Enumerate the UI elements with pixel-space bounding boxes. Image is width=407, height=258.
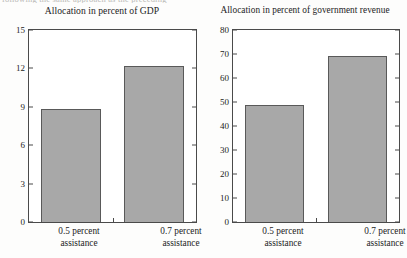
y-tick-mark-left bbox=[233, 198, 237, 199]
y-tick-mark-left bbox=[233, 78, 237, 79]
x-category-label-line: assistance bbox=[28, 238, 130, 250]
y-tick-label: 9 bbox=[21, 102, 26, 112]
y-tick-mark-right bbox=[192, 68, 196, 69]
y-tick-mark-left bbox=[233, 30, 237, 31]
plot-area-revenue: 01020304050607080 bbox=[232, 29, 400, 223]
y-tick-mark-left bbox=[29, 106, 33, 107]
x-axis-tick-mark bbox=[113, 218, 114, 222]
x-category-label-line: 0.5 percent bbox=[232, 226, 334, 238]
x-category-label: 0.7 percentassistance bbox=[334, 226, 407, 249]
y-tick-mark-right bbox=[192, 106, 196, 107]
y-tick-label: 3 bbox=[21, 179, 26, 189]
x-category-label-line: 0.7 percent bbox=[334, 226, 407, 238]
y-tick-mark-right bbox=[395, 54, 399, 55]
y-tick-mark-right bbox=[395, 126, 399, 127]
y-tick-label: 80 bbox=[220, 25, 229, 35]
y-tick-mark-left bbox=[233, 222, 237, 223]
y-tick-label: 40 bbox=[220, 121, 229, 131]
x-category-label: 0.5 percentassistance bbox=[28, 226, 130, 249]
y-tick-label: 6 bbox=[21, 140, 26, 150]
bar-0-7-percent-assistance bbox=[328, 56, 388, 222]
y-tick-label: 10 bbox=[220, 193, 229, 203]
y-tick-mark-right bbox=[395, 150, 399, 151]
y-tick-mark-right bbox=[192, 222, 196, 223]
y-tick-label: 60 bbox=[220, 73, 229, 83]
y-tick-mark-right bbox=[395, 30, 399, 31]
x-category-label-line: 0.5 percent bbox=[28, 226, 130, 238]
y-tick-mark-left bbox=[29, 222, 33, 223]
y-tick-mark-left bbox=[233, 174, 237, 175]
y-tick-mark-right bbox=[395, 102, 399, 103]
y-tick-label: 30 bbox=[220, 145, 229, 155]
chart-title-gdp: Allocation in percent of GDP bbox=[0, 5, 204, 16]
y-tick-mark-left bbox=[29, 30, 33, 31]
x-axis-labels-revenue: 0.5 percentassistance0.7 percentassistan… bbox=[203, 226, 407, 249]
plot-area-gdp: 03691215 bbox=[28, 29, 197, 223]
x-category-label-line: assistance bbox=[334, 238, 407, 250]
y-tick-mark-left bbox=[29, 145, 33, 146]
bar-0-5-percent-assistance bbox=[245, 105, 305, 222]
y-tick-mark-right bbox=[395, 222, 399, 223]
y-tick-mark-left bbox=[233, 126, 237, 127]
y-tick-label: 50 bbox=[220, 97, 229, 107]
y-tick-label: 15 bbox=[16, 25, 25, 35]
bar-0-5-percent-assistance bbox=[41, 109, 101, 222]
bar-0-7-percent-assistance bbox=[124, 66, 184, 222]
y-tick-mark-right bbox=[192, 145, 196, 146]
x-category-label: 0.5 percentassistance bbox=[232, 226, 334, 249]
x-category-label-line: assistance bbox=[232, 238, 334, 250]
y-tick-mark-right bbox=[395, 78, 399, 79]
chart-title-revenue: Allocation in percent of government reve… bbox=[203, 5, 407, 15]
y-tick-mark-left bbox=[233, 102, 237, 103]
y-tick-mark-right bbox=[192, 30, 196, 31]
y-tick-mark-right bbox=[395, 174, 399, 175]
y-tick-mark-left bbox=[29, 68, 33, 69]
y-tick-label: 20 bbox=[220, 169, 229, 179]
y-tick-mark-right bbox=[192, 183, 196, 184]
y-tick-label: 70 bbox=[220, 49, 229, 59]
y-tick-mark-left bbox=[29, 183, 33, 184]
y-tick-mark-left bbox=[233, 150, 237, 151]
x-axis-tick-mark bbox=[316, 218, 317, 222]
chart-panel-revenue: Allocation in percent of government reve… bbox=[203, 0, 407, 258]
y-tick-mark-right bbox=[395, 198, 399, 199]
y-tick-label: 12 bbox=[16, 63, 25, 73]
y-tick-mark-left bbox=[233, 54, 237, 55]
chart-panel-gdp: Allocation in percent of GDP 03691215 0.… bbox=[0, 0, 204, 258]
figure-two-bar-charts: following the same approach as the prece… bbox=[0, 0, 407, 258]
